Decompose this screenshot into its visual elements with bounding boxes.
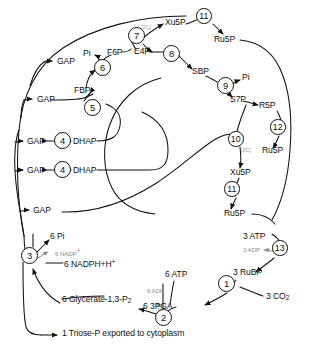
cofactor-adp-3: 3 ADP [243, 247, 260, 253]
cofactor-pi-6: 6 Pi [50, 232, 64, 241]
metabolite-ru5p-top: Ru5P [214, 35, 235, 44]
enzyme-circle-4b: 4 [54, 161, 71, 178]
enzyme-circle-4a: 4 [54, 132, 71, 149]
metabolite-r5p: R5P [259, 101, 275, 110]
output-triose-p-export: 1 Triose-P exported to cytoplasm [62, 329, 184, 338]
enzyme-circle-12: 12 [270, 119, 286, 135]
metabolite-pi-2: Pi [242, 73, 249, 82]
enzyme-circle-5: 5 [84, 99, 101, 116]
metabolite-ru5p-mid: Ru5P [262, 146, 283, 155]
cofactor-adp-6: 6 ADP [147, 288, 164, 294]
cofactor-atp-6: 6 ATP [165, 270, 187, 279]
annotation-2c-transketolase-b: [2C] [241, 148, 251, 154]
metabolite-s7p: S7P [230, 95, 246, 104]
metabolite-fbp: FBP [74, 86, 90, 95]
metabolite-e4p: E4P [134, 47, 150, 56]
enzyme-circle-11b: 11 [224, 181, 240, 197]
enzyme-circle-3: 3 [21, 247, 38, 264]
enzyme-circle-1: 1 [218, 275, 235, 292]
enzyme-circle-6: 6 [94, 59, 111, 76]
enzyme-circle-10: 10 [228, 131, 244, 147]
calvin-cycle-diagram: GAP GAP GAP GAP GAP FBP F6P Pi E4P Xu5P … [0, 0, 312, 347]
metabolite-xu5p-top: Xu5P [165, 18, 186, 27]
cofactor-atp-3: 3 ATP [243, 232, 265, 241]
enzyme-circle-8: 8 [163, 45, 180, 62]
metabolite-xu5p-mid: Xu5P [230, 168, 251, 177]
substrate-co2: 3 CO2 [266, 292, 289, 301]
metabolite-pi-1: Pi [83, 49, 90, 58]
metabolite-3pga: 6 3PGA [143, 302, 173, 311]
enzyme-circle-11a: 11 [196, 8, 212, 24]
metabolite-gap-3: GAP [27, 137, 45, 146]
enzyme-circle-9: 9 [217, 77, 234, 94]
cofactor-nadp: 6 NADP+ [55, 248, 80, 257]
metabolite-gap-1: GAP [57, 57, 75, 66]
enzyme-circle-7: 7 [128, 27, 145, 44]
metabolite-rubp: 3 RuBP [233, 268, 262, 277]
enzyme-circle-2: 2 [155, 309, 172, 326]
metabolite-gap-5: GAP [33, 206, 51, 215]
metabolite-gap-2: GAP [37, 95, 55, 104]
metabolite-f6p: F6P [107, 48, 122, 57]
cofactor-nadph: 6 NADPH+H+ [64, 259, 115, 269]
metabolite-gap-4: GAP [27, 166, 45, 175]
enzyme-circle-13: 13 [272, 240, 288, 256]
metabolite-dhap-1: DHAP [73, 137, 96, 146]
metabolite-sbp: SBP [192, 67, 209, 76]
metabolite-glycerate-bisphosphate: 6 Glycerate-1,3-P2 [62, 295, 131, 304]
metabolite-dhap-2: DHAP [73, 166, 96, 175]
metabolite-ru5p-bottom: Ru5P [224, 209, 245, 218]
